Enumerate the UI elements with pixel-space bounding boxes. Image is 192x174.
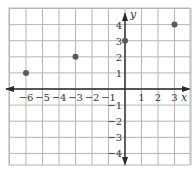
data-points (23, 22, 178, 76)
y-tick-label: −4 (107, 148, 122, 159)
y-tick-label: 4 (116, 20, 122, 31)
data-point (73, 54, 79, 60)
x-tick-label: −5 (35, 92, 50, 103)
x-tick-label: −2 (85, 92, 100, 103)
x-tick-label: 1 (138, 92, 144, 103)
y-tick-label: −1 (107, 100, 122, 111)
x-tick-label: 2 (155, 92, 161, 103)
y-tick-label: 1 (116, 68, 122, 79)
data-point (122, 38, 128, 44)
x-tick-label: −3 (68, 92, 83, 103)
x-axis-label: x (181, 91, 188, 104)
coordinate-plane: −6−5−4−3−2−11234321−1−2−3−4 x y (0, 0, 192, 174)
x-tick-label: −6 (19, 92, 34, 103)
y-tick-label: 2 (116, 52, 122, 63)
y-tick-label: 3 (116, 36, 122, 47)
axes (5, 12, 191, 166)
grid-frame (9, 8, 190, 165)
x-tick-label: 3 (171, 92, 177, 103)
x-tick-label: −4 (52, 92, 67, 103)
data-point (172, 22, 178, 28)
grid-lines (9, 8, 191, 165)
y-axis-label: y (129, 8, 137, 21)
data-point (23, 70, 29, 76)
y-tick-label: −3 (107, 132, 122, 143)
y-axis-up-arrow-icon (122, 12, 128, 21)
y-tick-label: −2 (107, 116, 122, 127)
